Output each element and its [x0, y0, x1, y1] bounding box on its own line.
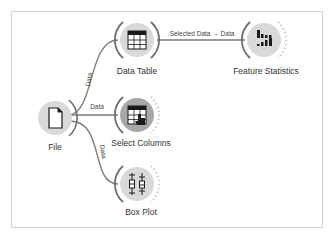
node-feature-statistics-body[interactable]: [247, 23, 281, 57]
table-icon: [128, 31, 146, 49]
node-label-select-columns: Select Columns: [111, 138, 171, 148]
workflow-canvas[interactable]: Data Data Data Selected Data → Data File…: [0, 0, 331, 239]
node-label-file: File: [48, 142, 62, 152]
node-label-box-plot: Box Plot: [125, 207, 157, 217]
node-label-feature-statistics: Feature Statistics: [233, 66, 299, 76]
node-box-plot-body[interactable]: [120, 167, 154, 201]
link-label-file-select-columns: Data: [90, 103, 104, 110]
node-label-data-table: Data Table: [117, 66, 158, 76]
link-label-data-table-feature-statistics: Selected Data → Data: [170, 30, 235, 37]
file-icon: [49, 108, 62, 128]
select-columns-icon: [128, 106, 146, 125]
